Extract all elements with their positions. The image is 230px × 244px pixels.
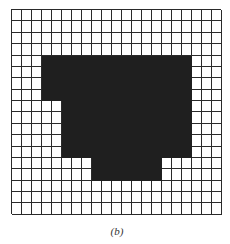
empty-cell bbox=[142, 203, 152, 214]
filled-cell bbox=[62, 147, 72, 158]
filled-cell bbox=[82, 124, 92, 135]
empty-cell bbox=[212, 67, 222, 78]
empty-cell bbox=[172, 181, 182, 192]
empty-cell bbox=[12, 181, 22, 192]
empty-cell bbox=[182, 158, 192, 169]
filled-cell bbox=[142, 158, 152, 169]
filled-cell bbox=[152, 169, 162, 180]
filled-cell bbox=[112, 112, 122, 123]
empty-cell bbox=[52, 169, 62, 180]
filled-cell bbox=[112, 147, 122, 158]
filled-cell bbox=[122, 101, 132, 112]
empty-cell bbox=[72, 10, 82, 21]
filled-cell bbox=[172, 147, 182, 158]
empty-cell bbox=[62, 158, 72, 169]
empty-cell bbox=[72, 169, 82, 180]
empty-cell bbox=[152, 10, 162, 21]
empty-cell bbox=[62, 44, 72, 55]
empty-cell bbox=[82, 181, 92, 192]
empty-cell bbox=[32, 21, 42, 32]
empty-cell bbox=[82, 203, 92, 214]
empty-cell bbox=[122, 44, 132, 55]
empty-cell bbox=[32, 112, 42, 123]
empty-cell bbox=[12, 135, 22, 146]
empty-cell bbox=[192, 44, 202, 55]
filled-cell bbox=[112, 124, 122, 135]
empty-cell bbox=[192, 169, 202, 180]
filled-cell bbox=[72, 101, 82, 112]
empty-cell bbox=[142, 44, 152, 55]
empty-cell bbox=[22, 181, 32, 192]
filled-cell bbox=[82, 112, 92, 123]
empty-cell bbox=[112, 21, 122, 32]
empty-cell bbox=[202, 124, 212, 135]
filled-cell bbox=[142, 124, 152, 135]
filled-cell bbox=[142, 135, 152, 146]
empty-cell bbox=[172, 33, 182, 44]
empty-cell bbox=[192, 135, 202, 146]
empty-cell bbox=[182, 10, 192, 21]
empty-cell bbox=[12, 192, 22, 203]
filled-cell bbox=[152, 101, 162, 112]
empty-cell bbox=[132, 44, 142, 55]
filled-cell bbox=[112, 158, 122, 169]
empty-cell bbox=[142, 10, 152, 21]
filled-cell bbox=[72, 90, 82, 101]
filled-cell bbox=[82, 147, 92, 158]
empty-cell bbox=[32, 67, 42, 78]
empty-cell bbox=[62, 33, 72, 44]
filled-cell bbox=[152, 124, 162, 135]
filled-cell bbox=[142, 67, 152, 78]
filled-cell bbox=[72, 56, 82, 67]
empty-cell bbox=[202, 101, 212, 112]
empty-cell bbox=[192, 158, 202, 169]
filled-cell bbox=[82, 78, 92, 89]
empty-cell bbox=[192, 90, 202, 101]
empty-cell bbox=[162, 192, 172, 203]
empty-cell bbox=[172, 21, 182, 32]
empty-cell bbox=[192, 10, 202, 21]
empty-cell bbox=[152, 33, 162, 44]
empty-cell bbox=[62, 181, 72, 192]
empty-cell bbox=[72, 44, 82, 55]
empty-cell bbox=[182, 169, 192, 180]
empty-cell bbox=[12, 33, 22, 44]
filled-cell bbox=[112, 90, 122, 101]
empty-cell bbox=[42, 158, 52, 169]
filled-cell bbox=[92, 158, 102, 169]
filled-cell bbox=[92, 124, 102, 135]
empty-cell bbox=[92, 203, 102, 214]
filled-cell bbox=[122, 67, 132, 78]
empty-cell bbox=[132, 181, 142, 192]
empty-cell bbox=[22, 67, 32, 78]
filled-cell bbox=[102, 56, 112, 67]
empty-cell bbox=[82, 158, 92, 169]
empty-cell bbox=[62, 203, 72, 214]
filled-cell bbox=[102, 169, 112, 180]
empty-cell bbox=[102, 192, 112, 203]
empty-cell bbox=[102, 21, 112, 32]
empty-cell bbox=[212, 10, 222, 21]
empty-cell bbox=[32, 56, 42, 67]
filled-cell bbox=[42, 78, 52, 89]
filled-cell bbox=[42, 67, 52, 78]
empty-cell bbox=[32, 90, 42, 101]
filled-cell bbox=[42, 90, 52, 101]
empty-cell bbox=[52, 192, 62, 203]
empty-cell bbox=[12, 112, 22, 123]
filled-cell bbox=[172, 101, 182, 112]
filled-cell bbox=[132, 78, 142, 89]
empty-cell bbox=[52, 147, 62, 158]
filled-cell bbox=[92, 101, 102, 112]
filled-cell bbox=[82, 135, 92, 146]
filled-cell bbox=[72, 124, 82, 135]
empty-cell bbox=[112, 33, 122, 44]
empty-cell bbox=[142, 192, 152, 203]
empty-cell bbox=[22, 192, 32, 203]
empty-cell bbox=[92, 181, 102, 192]
empty-cell bbox=[72, 21, 82, 32]
empty-cell bbox=[12, 203, 22, 214]
filled-cell bbox=[152, 158, 162, 169]
filled-cell bbox=[162, 90, 172, 101]
filled-cell bbox=[62, 78, 72, 89]
